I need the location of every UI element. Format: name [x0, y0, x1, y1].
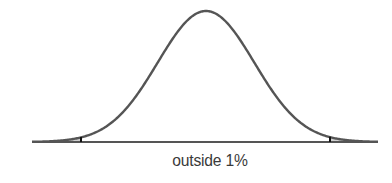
caption-outside-1-percent: outside 1%	[17, 151, 392, 171]
bell-curve	[32, 11, 378, 142]
